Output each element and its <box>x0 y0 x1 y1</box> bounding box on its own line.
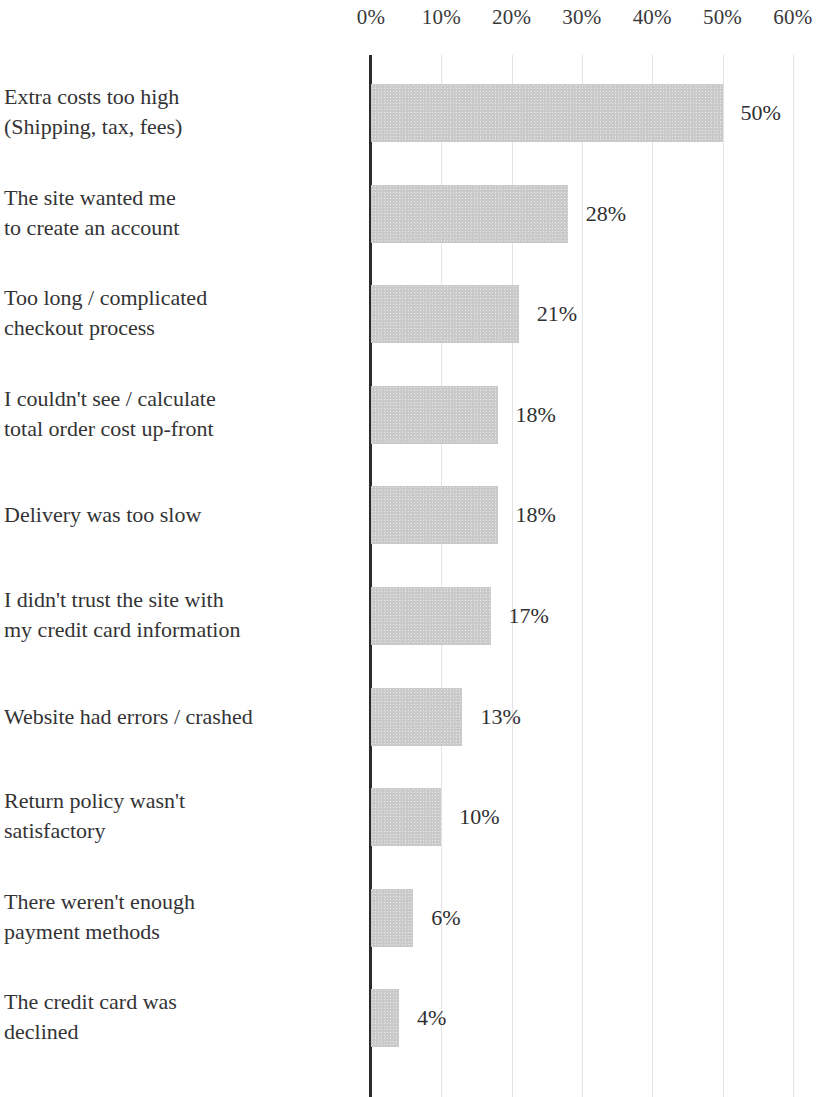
bar <box>371 889 413 947</box>
x-axis-tick-labels: 0%10%20%30%40%50%60% <box>0 0 818 40</box>
bar <box>371 688 462 746</box>
bar-row: Too long / complicated checkout process2… <box>0 285 818 343</box>
bar-row: There weren't enough payment methods6% <box>0 889 818 947</box>
bar-value-label: 18% <box>516 502 556 528</box>
x-axis-tick-label: 60% <box>773 4 812 30</box>
x-axis-tick-label: 50% <box>703 4 742 30</box>
bar-value-label: 13% <box>480 704 520 730</box>
category-label: Extra costs too high (Shipping, tax, fee… <box>4 82 354 142</box>
x-axis-tick-label: 40% <box>633 4 672 30</box>
bar <box>371 788 441 846</box>
bar-value-label: 50% <box>741 100 781 126</box>
bar <box>371 587 491 645</box>
bar-row: The credit card was declined4% <box>0 989 818 1047</box>
category-label: Return policy wasn't satisfactory <box>4 786 354 846</box>
bar <box>371 989 399 1047</box>
category-label: The site wanted me to create an account <box>4 183 354 243</box>
category-label: I couldn't see / calculate total order c… <box>4 384 354 444</box>
bar-value-label: 21% <box>537 301 577 327</box>
plot-area: Extra costs too high (Shipping, tax, fee… <box>0 55 818 1097</box>
category-label: I didn't trust the site with my credit c… <box>4 585 354 645</box>
category-label: Website had errors / crashed <box>4 702 354 732</box>
x-axis-tick-label: 30% <box>562 4 601 30</box>
x-axis-tick-label: 10% <box>422 4 461 30</box>
bar <box>371 185 568 243</box>
bar-row: Return policy wasn't satisfactory10% <box>0 788 818 846</box>
bar <box>371 486 498 544</box>
bar-row: I didn't trust the site with my credit c… <box>0 587 818 645</box>
category-label: The credit card was declined <box>4 987 354 1047</box>
bar <box>371 386 498 444</box>
bar-value-label: 6% <box>431 905 460 931</box>
x-axis-tick-label: 0% <box>357 4 385 30</box>
x-axis-tick-label: 20% <box>492 4 531 30</box>
category-label: Delivery was too slow <box>4 500 354 530</box>
bar <box>371 84 723 142</box>
bar-value-label: 17% <box>509 603 549 629</box>
bar-row: Extra costs too high (Shipping, tax, fee… <box>0 84 818 142</box>
bar-value-label: 28% <box>586 201 626 227</box>
bar-row: I couldn't see / calculate total order c… <box>0 386 818 444</box>
bar-row: Delivery was too slow18% <box>0 486 818 544</box>
category-label: There weren't enough payment methods <box>4 887 354 947</box>
bar-row: Website had errors / crashed13% <box>0 688 818 746</box>
horizontal-bar-chart: 0%10%20%30%40%50%60% Extra costs too hig… <box>0 0 818 1097</box>
bar-value-label: 4% <box>417 1005 446 1031</box>
bar-value-label: 10% <box>459 804 499 830</box>
bar-row: The site wanted me to create an account2… <box>0 185 818 243</box>
bar-value-label: 18% <box>516 402 556 428</box>
category-label: Too long / complicated checkout process <box>4 283 354 343</box>
bar <box>371 285 519 343</box>
